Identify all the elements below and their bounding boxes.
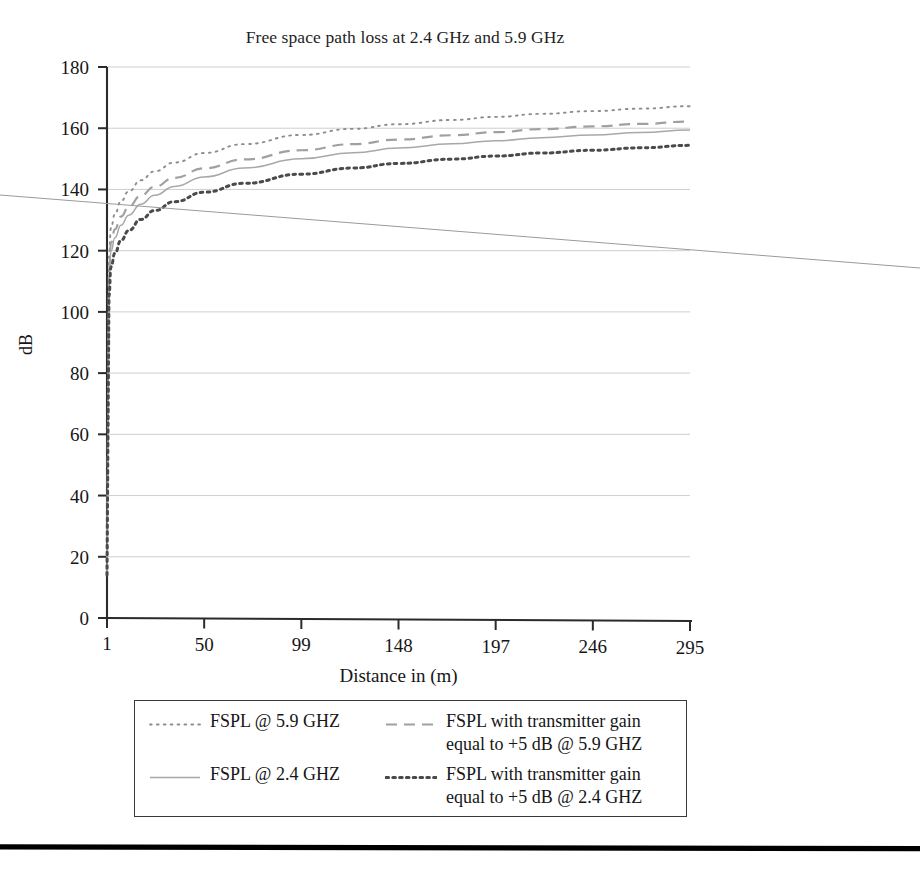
y-tick-label: 140 — [37, 180, 89, 199]
chart-plot-area — [0, 0, 920, 700]
legend-entry-fspl-59[interactable]: FSPL @ 5.9 GHZ — [149, 710, 340, 733]
legend-entry-fspl-24-gain[interactable]: FSPL with transmitter gain equal to +5 d… — [385, 763, 642, 809]
legend-label: FSPL with transmitter gain equal to +5 d… — [446, 763, 642, 809]
chart-series-line-2 — [107, 130, 690, 575]
x-tick-label: 1 — [77, 634, 137, 653]
legend-swatch-dashed-icon — [385, 716, 437, 733]
x-tick-label: 99 — [271, 635, 331, 654]
legend-label: FSPL with transmitter gain equal to +5 d… — [446, 710, 642, 756]
y-tick-label: 60 — [37, 425, 89, 444]
y-tick-label: 0 — [37, 609, 89, 628]
legend-swatch-bold-dotted-icon — [385, 769, 437, 786]
legend-label: FSPL @ 5.9 GHZ — [210, 710, 340, 733]
x-tick-label: 148 — [369, 636, 429, 655]
y-tick-label: 160 — [37, 119, 89, 138]
bottom-divider-rule — [0, 843, 920, 852]
x-axis-title: Distance in (m) — [107, 665, 690, 687]
legend-label: FSPL @ 2.4 GHZ — [210, 763, 340, 786]
chart-series-line-3 — [107, 145, 690, 575]
y-tick-label: 40 — [37, 487, 89, 506]
chart-series-line-0 — [107, 106, 690, 575]
y-tick-label: 20 — [37, 548, 89, 567]
legend-swatch-dotted-icon — [149, 716, 201, 733]
y-tick-label: 120 — [37, 242, 89, 261]
legend-swatch-solid-icon — [149, 769, 201, 786]
x-tick-label: 50 — [174, 635, 234, 654]
chart-legend: FSPL @ 5.9 GHZ FSPL with transmitter gai… — [134, 700, 687, 817]
y-tick-label: 180 — [37, 58, 89, 77]
y-axis-title: dB — [16, 334, 37, 355]
y-tick-label: 80 — [37, 364, 89, 383]
x-tick-label: 197 — [466, 637, 526, 656]
y-tick-label: 100 — [37, 303, 89, 322]
x-tick-label: 246 — [563, 637, 623, 656]
x-tick-label: 295 — [660, 638, 720, 657]
legend-entry-fspl-24[interactable]: FSPL @ 2.4 GHZ — [149, 763, 340, 786]
legend-entry-fspl-59-gain[interactable]: FSPL with transmitter gain equal to +5 d… — [385, 710, 642, 756]
figure-page: Free space path loss at 2.4 GHz and 5.9 … — [0, 0, 920, 873]
